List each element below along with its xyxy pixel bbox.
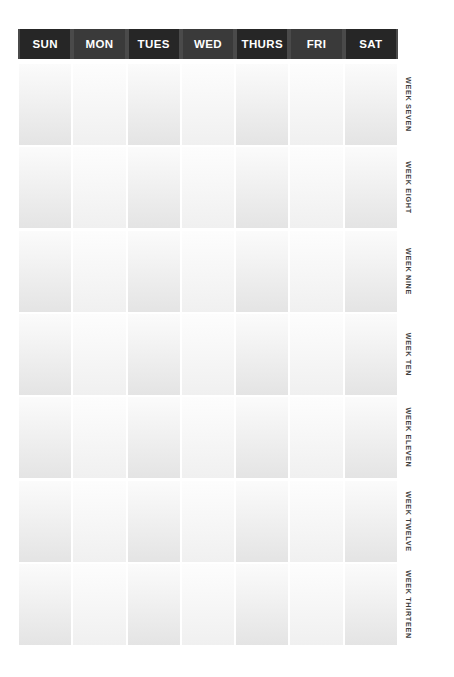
date-cell-fill xyxy=(128,397,180,478)
date-cell[interactable] xyxy=(289,397,343,478)
date-cell-fill xyxy=(345,231,397,312)
date-cell-fill xyxy=(19,397,71,478)
date-cell[interactable] xyxy=(235,564,289,645)
day-header-bar: SUN MON TUES WED THURS FRI SAT xyxy=(18,29,398,59)
week-row xyxy=(18,481,398,562)
date-cell-fill xyxy=(73,64,125,145)
date-cell-fill xyxy=(73,231,125,312)
date-cell[interactable] xyxy=(344,314,398,395)
week-row xyxy=(18,314,398,395)
date-cell[interactable] xyxy=(72,481,126,562)
date-cell[interactable] xyxy=(181,481,235,562)
date-cell[interactable] xyxy=(235,397,289,478)
date-cell-fill xyxy=(128,231,180,312)
date-cell[interactable] xyxy=(344,64,398,145)
date-cell-fill xyxy=(73,314,125,395)
date-cell-fill xyxy=(290,481,342,562)
date-cell-fill xyxy=(73,397,125,478)
date-cell-fill xyxy=(290,397,342,478)
date-cell[interactable] xyxy=(127,231,181,312)
week-label: WEEK THIRTEEN xyxy=(398,564,420,645)
date-cell-fill xyxy=(345,564,397,645)
date-cell[interactable] xyxy=(289,64,343,145)
day-header-thurs: THURS xyxy=(235,29,289,59)
date-cell-fill xyxy=(128,147,180,228)
date-cell-fill xyxy=(73,481,125,562)
date-cell-fill xyxy=(182,397,234,478)
date-cell-fill xyxy=(182,147,234,228)
date-cell[interactable] xyxy=(127,314,181,395)
date-cell[interactable] xyxy=(235,64,289,145)
day-header-label: WED xyxy=(194,38,222,50)
date-cell[interactable] xyxy=(72,314,126,395)
day-header-sat: SAT xyxy=(344,29,398,59)
date-cell[interactable] xyxy=(181,147,235,228)
date-cell[interactable] xyxy=(127,481,181,562)
week-label: WEEK TEN xyxy=(398,314,420,395)
date-cell[interactable] xyxy=(72,231,126,312)
date-cell[interactable] xyxy=(181,314,235,395)
date-cell[interactable] xyxy=(344,481,398,562)
date-cell[interactable] xyxy=(235,481,289,562)
date-cell-fill xyxy=(19,231,71,312)
planner-grid xyxy=(18,64,398,644)
date-cell-fill xyxy=(345,147,397,228)
date-cell[interactable] xyxy=(344,564,398,645)
date-cell[interactable] xyxy=(235,231,289,312)
date-cell-fill xyxy=(73,564,125,645)
date-cell[interactable] xyxy=(181,397,235,478)
week-label: WEEK TWELVE xyxy=(398,481,420,562)
date-cell-fill xyxy=(345,397,397,478)
date-cell-fill xyxy=(236,481,288,562)
date-cell[interactable] xyxy=(127,64,181,145)
date-cell[interactable] xyxy=(181,231,235,312)
date-cell-fill xyxy=(236,564,288,645)
date-cell[interactable] xyxy=(72,397,126,478)
weekly-planner: SUN MON TUES WED THURS FRI SAT WEEK SEVE… xyxy=(0,0,454,677)
date-cell[interactable] xyxy=(289,231,343,312)
date-cell-fill xyxy=(290,147,342,228)
date-cell[interactable] xyxy=(18,481,72,562)
date-cell-fill xyxy=(182,564,234,645)
date-cell[interactable] xyxy=(344,147,398,228)
date-cell[interactable] xyxy=(72,147,126,228)
date-cell-fill xyxy=(236,314,288,395)
date-cell-fill xyxy=(236,64,288,145)
week-row xyxy=(18,147,398,228)
day-header-label: MON xyxy=(85,38,113,50)
date-cell[interactable] xyxy=(18,64,72,145)
date-cell[interactable] xyxy=(344,231,398,312)
date-cell[interactable] xyxy=(289,481,343,562)
date-cell[interactable] xyxy=(181,64,235,145)
date-cell-fill xyxy=(290,64,342,145)
day-header-tues: TUES xyxy=(127,29,181,59)
date-cell-fill xyxy=(128,564,180,645)
week-row xyxy=(18,64,398,145)
date-cell[interactable] xyxy=(18,564,72,645)
date-cell-fill xyxy=(19,147,71,228)
week-row xyxy=(18,564,398,645)
date-cell[interactable] xyxy=(72,64,126,145)
date-cell[interactable] xyxy=(344,397,398,478)
date-cell[interactable] xyxy=(18,314,72,395)
date-cell-fill xyxy=(19,64,71,145)
date-cell[interactable] xyxy=(235,314,289,395)
date-cell[interactable] xyxy=(181,564,235,645)
date-cell-fill xyxy=(345,314,397,395)
date-cell[interactable] xyxy=(235,147,289,228)
date-cell-fill xyxy=(128,481,180,562)
week-row xyxy=(18,397,398,478)
date-cell-fill xyxy=(290,231,342,312)
date-cell[interactable] xyxy=(18,231,72,312)
date-cell[interactable] xyxy=(18,147,72,228)
date-cell[interactable] xyxy=(127,397,181,478)
date-cell[interactable] xyxy=(289,314,343,395)
date-cell[interactable] xyxy=(289,564,343,645)
date-cell[interactable] xyxy=(127,564,181,645)
date-cell[interactable] xyxy=(127,147,181,228)
date-cell[interactable] xyxy=(72,564,126,645)
date-cell-fill xyxy=(19,314,71,395)
date-cell-fill xyxy=(236,231,288,312)
date-cell[interactable] xyxy=(289,147,343,228)
date-cell[interactable] xyxy=(18,397,72,478)
